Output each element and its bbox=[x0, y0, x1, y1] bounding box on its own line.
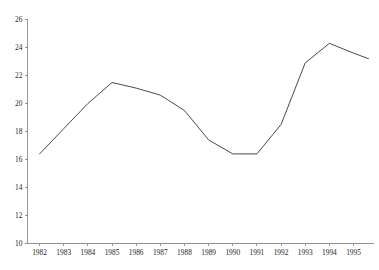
x-axis-tick-label: 1990 bbox=[225, 248, 240, 257]
y-axis-tick-label: 10 bbox=[15, 239, 23, 248]
x-axis-tick-label: 1992 bbox=[274, 248, 289, 257]
y-axis-tick-label: 20 bbox=[15, 99, 23, 108]
x-axis-tick-labels: 1982198319841985198619871988198919901991… bbox=[32, 248, 361, 257]
x-axis-tick-label: 1991 bbox=[250, 248, 265, 257]
y-axis-tick-label: 18 bbox=[15, 127, 23, 136]
x-axis-tick-label: 1995 bbox=[346, 248, 361, 257]
y-axis-tick-label: 24 bbox=[15, 43, 23, 52]
chart-plot-area: 101214161820222426 198219831984198519861… bbox=[0, 0, 379, 270]
y-axis-tick-label: 26 bbox=[15, 15, 23, 24]
y-axis-tick-label: 12 bbox=[15, 211, 23, 220]
y-axis-tick-labels: 101214161820222426 bbox=[15, 15, 23, 248]
x-axis-tick-label: 1986 bbox=[129, 248, 144, 257]
x-axis-tick-label: 1982 bbox=[32, 248, 47, 257]
y-axis-tick-label: 22 bbox=[15, 71, 23, 80]
x-axis-tick-label: 1993 bbox=[298, 248, 313, 257]
data-series-line bbox=[40, 43, 369, 154]
y-axis-tick-label: 16 bbox=[15, 155, 23, 164]
x-axis-tick-label: 1988 bbox=[177, 248, 192, 257]
x-axis-tick-label: 1987 bbox=[153, 248, 168, 257]
x-axis-tick-label: 1994 bbox=[322, 248, 337, 257]
x-axis-tick-label: 1983 bbox=[56, 248, 71, 257]
x-axis-tick-label: 1984 bbox=[80, 248, 95, 257]
x-axis-tick-label: 1989 bbox=[201, 248, 216, 257]
line-chart: 101214161820222426 198219831984198519861… bbox=[0, 0, 379, 270]
y-axis-tick-label: 14 bbox=[15, 183, 23, 192]
x-axis-tick-label: 1985 bbox=[105, 248, 120, 257]
